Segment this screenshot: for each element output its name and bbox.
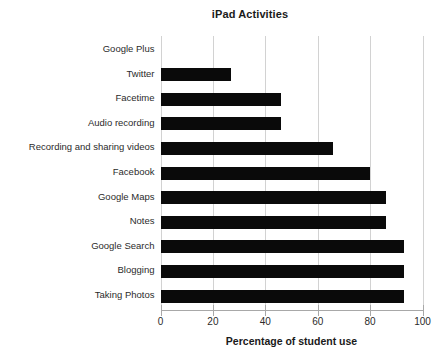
- bar: [161, 191, 386, 204]
- x-axis-title: Percentage of student use: [161, 335, 423, 347]
- chart-page: iPad Activities Google PlusTwitterFaceti…: [0, 0, 444, 362]
- x-tick-40: [265, 305, 266, 316]
- category-label: Google Maps: [1, 191, 161, 202]
- bar: [161, 117, 282, 130]
- bar: [161, 290, 405, 303]
- category-label: Taking Photos: [1, 289, 161, 300]
- gridline-100: [423, 36, 424, 310]
- bar: [161, 240, 405, 253]
- category-label: Blogging: [1, 264, 161, 275]
- y-axis-category-labels: Google PlusTwitterFacetimeAudio recordin…: [0, 36, 161, 310]
- category-label: Facebook: [1, 166, 161, 177]
- x-tick-60: [318, 305, 319, 316]
- category-label: Facetime: [1, 92, 161, 103]
- category-label: Google Plus: [1, 43, 161, 54]
- x-tick-label-60: 60: [298, 316, 338, 327]
- chart-title: iPad Activities: [0, 8, 444, 20]
- category-label: Audio recording: [1, 117, 161, 128]
- bar: [161, 167, 371, 180]
- x-tick-20: [213, 305, 214, 316]
- x-tick-label-80: 80: [350, 316, 390, 327]
- bar: [161, 93, 282, 106]
- category-label: Google Search: [1, 240, 161, 251]
- x-tick-80: [370, 305, 371, 316]
- category-label: Twitter: [1, 68, 161, 79]
- category-label: Notes: [1, 215, 161, 226]
- x-tick-0: [161, 305, 162, 316]
- bar: [161, 265, 405, 278]
- x-axis-line: [161, 310, 424, 311]
- x-tick-100: [423, 305, 424, 316]
- category-label: Recording and sharing videos: [1, 141, 161, 152]
- x-tick-label-100: 100: [403, 316, 443, 327]
- plot-area: [161, 36, 423, 310]
- x-tick-label-40: 40: [245, 316, 285, 327]
- x-tick-label-0: 0: [141, 316, 181, 327]
- bar: [161, 68, 232, 81]
- x-tick-label-20: 20: [193, 316, 233, 327]
- bar: [161, 142, 334, 155]
- bar: [161, 216, 386, 229]
